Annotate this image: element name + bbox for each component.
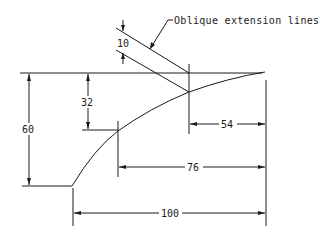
arrow-head-icon: [86, 74, 90, 81]
callout-label: Oblique extension lines: [174, 15, 319, 26]
arrow-head-icon: [119, 165, 126, 169]
oblique-extension-line-lower: [116, 50, 189, 92]
arrow-head-icon: [121, 53, 125, 59]
arrow-head-icon: [258, 122, 265, 126]
arrow-head-icon: [27, 74, 31, 81]
arrow-head-icon: [27, 178, 31, 185]
technical-drawing: 60 32 54 76 100 10 Oblique extension lin…: [0, 0, 320, 237]
dim-10-label: 10: [117, 38, 129, 49]
dim-32-label: 32: [81, 97, 93, 108]
arrow-head-icon: [74, 211, 81, 215]
dim-60-label: 60: [22, 124, 34, 135]
arrow-head-icon: [86, 122, 90, 129]
dim-100-label: 100: [161, 208, 179, 219]
arrow-head-icon: [258, 165, 265, 169]
arrow-head-icon: [258, 211, 265, 215]
dim-76-label: 76: [187, 162, 199, 173]
dim-54-label: 54: [221, 119, 233, 130]
arrow-head-icon: [121, 25, 125, 31]
oblique-extension-line-upper: [116, 28, 189, 73]
arrow-head-icon: [190, 122, 197, 126]
